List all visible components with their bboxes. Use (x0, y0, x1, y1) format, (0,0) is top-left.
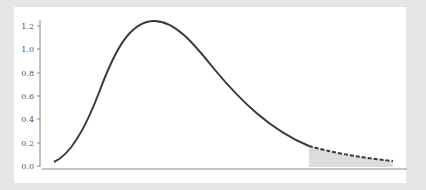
y-tick-label: 1.2 (21, 22, 34, 31)
y-tick-label: 0.8 (21, 69, 34, 78)
y-tick-label: 0.4 (21, 115, 34, 124)
y-tick-label: 0.0 (21, 162, 34, 171)
chart-svg: 0.0 0.2 0.4 0.6 0.8 1.0 1.2 (0, 0, 426, 190)
y-tick-labels: 0.0 0.2 0.4 0.6 0.8 1.0 1.2 (21, 22, 34, 171)
y-tick-label: 0.6 (21, 92, 34, 101)
y-tick-label: 0.2 (21, 139, 34, 148)
density-curve (54, 21, 309, 162)
y-tick-label: 1.0 (21, 45, 34, 54)
